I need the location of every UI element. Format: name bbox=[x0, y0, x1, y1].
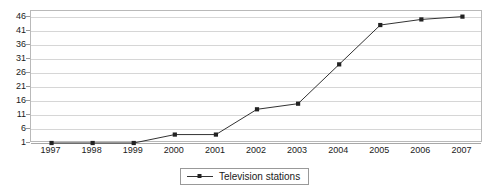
chart-legend: Television stations bbox=[180, 168, 309, 185]
x-tick-label: 1997 bbox=[41, 145, 61, 155]
data-point-marker bbox=[378, 23, 382, 27]
x-tick-label: 2006 bbox=[410, 145, 430, 155]
data-point-marker bbox=[419, 17, 423, 21]
x-tick-label: 2005 bbox=[369, 145, 389, 155]
x-tick-label: 2000 bbox=[164, 145, 184, 155]
legend-line-marker-icon bbox=[187, 172, 213, 181]
data-point-marker bbox=[337, 62, 341, 66]
y-tick-label: 11 bbox=[17, 109, 26, 118]
data-point-marker bbox=[460, 15, 464, 19]
data-point-marker bbox=[214, 132, 218, 136]
x-tick-label: 2004 bbox=[328, 145, 348, 155]
data-point-marker bbox=[173, 132, 177, 136]
x-tick-label: 2001 bbox=[205, 145, 225, 155]
y-tick-label: 16 bbox=[16, 95, 26, 104]
x-tick-label: 2002 bbox=[246, 145, 266, 155]
x-tick-label: 1998 bbox=[82, 145, 102, 155]
data-point-marker bbox=[296, 102, 300, 106]
y-tick-label: 36 bbox=[16, 39, 26, 48]
y-tick-label: 26 bbox=[16, 67, 26, 76]
y-tick-mark bbox=[26, 142, 30, 143]
x-tick-label: 2007 bbox=[451, 145, 471, 155]
y-axis: 161116212631364146 bbox=[0, 10, 26, 142]
legend-label-television-stations: Television stations bbox=[219, 171, 300, 182]
line-chart: 161116212631364146 199719981999200020012… bbox=[0, 0, 493, 191]
x-axis: 1997199819992000200120022003200420052006… bbox=[30, 145, 482, 159]
y-tick-label: 46 bbox=[16, 11, 26, 20]
series-line bbox=[52, 17, 463, 143]
x-tick-label: 1999 bbox=[123, 145, 143, 155]
y-tick-label: 31 bbox=[16, 53, 26, 62]
series-television-stations bbox=[31, 11, 483, 143]
y-tick-label: 41 bbox=[16, 25, 26, 34]
x-tick-label: 2003 bbox=[287, 145, 307, 155]
plot-area bbox=[30, 10, 482, 142]
data-point-marker bbox=[255, 107, 259, 111]
y-tick-label: 21 bbox=[16, 81, 26, 90]
